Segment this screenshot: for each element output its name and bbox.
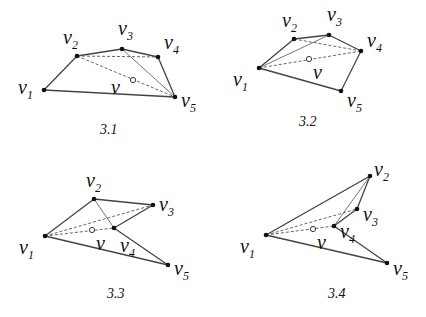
vertex-label-v4: v4 bbox=[367, 29, 382, 55]
vertex-point-v3 bbox=[120, 47, 125, 52]
vertex-point-v1 bbox=[43, 234, 48, 239]
vertex-point-v1 bbox=[257, 66, 262, 71]
figure-caption: 3.4 bbox=[327, 286, 346, 301]
vertex-label-v4: v4 bbox=[164, 31, 179, 57]
solid-edge-v3-v4 bbox=[329, 35, 361, 51]
solid-edge-v1-v2 bbox=[266, 176, 370, 235]
solid-edge-v5-v1 bbox=[44, 90, 175, 97]
vertex-point-v1 bbox=[264, 233, 269, 238]
center-point-v bbox=[89, 227, 94, 232]
vertex-point-v2 bbox=[92, 197, 97, 202]
vertex-label-v3: v3 bbox=[118, 17, 133, 43]
vertex-label-v5: v5 bbox=[347, 89, 362, 115]
vertex-label-v2: v2 bbox=[282, 9, 297, 35]
center-point-v bbox=[310, 226, 315, 231]
figure-3.1: v1v2v3v4v5v3.1 bbox=[18, 17, 196, 137]
center-label-v: v bbox=[317, 231, 326, 253]
solid-edge-v3-v4 bbox=[122, 49, 158, 57]
vertex-label-v4: v4 bbox=[340, 220, 355, 246]
vertex-point-v2 bbox=[75, 54, 80, 59]
vertex-point-v4 bbox=[156, 55, 161, 60]
vertex-label-v1: v1 bbox=[19, 236, 34, 262]
vertex-label-v1: v1 bbox=[240, 235, 255, 261]
vertex-point-v3 bbox=[355, 207, 360, 212]
figure-caption: 3.3 bbox=[106, 286, 125, 301]
vertex-point-v2 bbox=[368, 174, 373, 179]
center-point-v bbox=[306, 56, 311, 61]
vertex-point-v3 bbox=[151, 203, 156, 208]
vertex-point-v4 bbox=[332, 224, 337, 229]
vertex-label-v5: v5 bbox=[181, 89, 196, 115]
figure-3.2: v1v2v3v4v5v3.2 bbox=[233, 3, 382, 129]
vertex-label-v5: v5 bbox=[174, 257, 189, 283]
vertex-point-v5 bbox=[173, 95, 178, 100]
vertex-label-v2: v2 bbox=[86, 169, 101, 195]
vertex-point-v4 bbox=[359, 49, 364, 54]
dashed-edge-v2-v4 bbox=[77, 56, 158, 57]
figure-caption: 3.1 bbox=[99, 122, 118, 137]
vertex-label-v2: v2 bbox=[63, 26, 78, 52]
figure-3.3: v1v2v3v4v5v3.3 bbox=[19, 169, 189, 301]
solid-edge-v1-v2 bbox=[44, 56, 77, 90]
center-label-v: v bbox=[313, 61, 322, 83]
vertex-point-v1 bbox=[42, 88, 47, 93]
solid-edge-v4-v5 bbox=[341, 51, 361, 91]
vertex-point-v2 bbox=[292, 37, 297, 42]
vertex-label-v3: v3 bbox=[159, 193, 174, 219]
vertex-point-v5 bbox=[385, 261, 390, 266]
solid-edge-v5-v1 bbox=[45, 236, 168, 265]
solid-edge-v5-v1 bbox=[259, 68, 341, 91]
solid-edge-v5-v1 bbox=[266, 235, 387, 263]
center-label-v: v bbox=[96, 232, 105, 254]
diagonal-edge-v3-v5 bbox=[122, 49, 175, 97]
solid-edge-v3-v4 bbox=[114, 205, 153, 228]
figure-3.4: v1v2v3v4v5v3.4 bbox=[240, 158, 408, 301]
vertex-point-v3 bbox=[327, 33, 332, 38]
vertex-label-v3: v3 bbox=[363, 203, 378, 229]
vertex-label-v1: v1 bbox=[18, 76, 33, 102]
vertex-label-v3: v3 bbox=[327, 3, 342, 29]
diagonal-edge-v2-v4 bbox=[94, 199, 114, 228]
center-point-v bbox=[130, 77, 135, 82]
polygon-diagrams: v1v2v3v4v5v3.1v1v2v3v4v5v3.2v1v2v3v4v5v3… bbox=[0, 0, 426, 317]
solid-edge-v1-v2 bbox=[45, 199, 94, 236]
solid-edge-v2-v3 bbox=[94, 199, 153, 205]
center-label-v: v bbox=[111, 76, 120, 98]
figure-caption: 3.2 bbox=[298, 114, 317, 129]
vertex-point-v5 bbox=[166, 263, 171, 268]
vertex-point-v4 bbox=[112, 226, 117, 231]
solid-edge-v2-v3 bbox=[77, 49, 122, 56]
vertex-point-v5 bbox=[339, 89, 344, 94]
vertex-label-v5: v5 bbox=[393, 257, 408, 283]
vertex-label-v2: v2 bbox=[374, 158, 389, 184]
vertex-label-v1: v1 bbox=[233, 68, 248, 94]
dashed-edge-v2-v4 bbox=[294, 39, 361, 51]
